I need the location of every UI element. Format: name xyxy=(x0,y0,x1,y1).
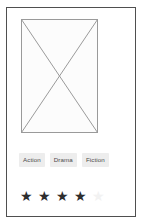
media-card[interactable]: Action Drama Fiction ★ ★ ★ ★ ★ xyxy=(6,7,136,217)
star-rating[interactable]: ★ ★ ★ ★ ★ xyxy=(20,187,130,205)
image-placeholder-x-icon xyxy=(21,19,98,133)
media-image-placeholder[interactable] xyxy=(21,19,98,133)
star-icon-2[interactable]: ★ xyxy=(38,189,51,203)
star-icon-5[interactable]: ★ xyxy=(92,189,105,203)
genre-chip-action[interactable]: Action xyxy=(19,153,45,167)
genre-chip-drama[interactable]: Drama xyxy=(50,153,77,167)
star-icon-1[interactable]: ★ xyxy=(20,189,33,203)
page-root: Action Drama Fiction ★ ★ ★ ★ ★ xyxy=(0,0,143,224)
star-icon-3[interactable]: ★ xyxy=(56,189,69,203)
genre-chip-fiction[interactable]: Fiction xyxy=(82,153,109,167)
genre-chip-list: Action Drama Fiction xyxy=(19,152,129,168)
star-icon-4[interactable]: ★ xyxy=(74,189,87,203)
